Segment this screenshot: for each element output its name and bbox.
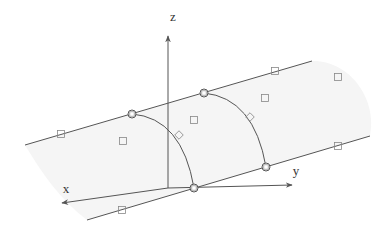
cylinder-diagram: z x y (0, 0, 390, 226)
circled-control-point (262, 163, 270, 171)
y-axis-label: y (293, 163, 300, 178)
cylinder-surface (25, 61, 371, 220)
circled-control-point (200, 89, 208, 97)
x-axis-label: x (63, 181, 70, 196)
z-axis-label: z (170, 9, 176, 24)
circled-control-point (128, 110, 136, 118)
circled-control-point (190, 184, 198, 192)
